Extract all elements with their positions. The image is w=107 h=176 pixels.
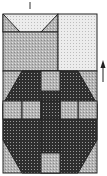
inner-right-square (60, 101, 78, 119)
right-center-square (78, 101, 97, 119)
upper-section (3, 14, 97, 71)
lower-block (3, 71, 97, 173)
left-rectangle (3, 32, 58, 71)
bottom-center-square (41, 153, 60, 173)
right-tall-rectangle (58, 14, 97, 71)
arrow-up-icon (101, 60, 106, 82)
top-center-square (41, 71, 60, 91)
center-square (41, 101, 60, 119)
quilt-diagram (0, 0, 107, 176)
inner-left-square (22, 101, 41, 119)
left-center-square (3, 101, 22, 119)
